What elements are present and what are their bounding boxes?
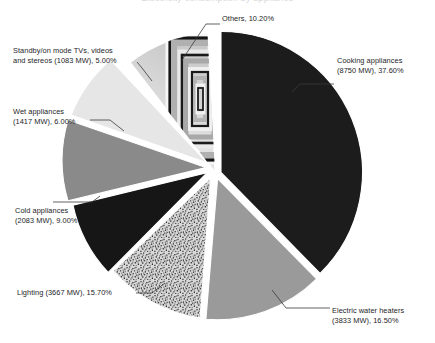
pie-chart-figure: Electricity consumption by appliance — [0, 0, 435, 343]
data-label-cooking-appliances: Cooking appliances (8750 MW), 37.60% — [337, 56, 433, 75]
data-label-others: Others, 10.20% — [222, 14, 302, 24]
data-label-wet-appliances: Wet appliances (1417 MW), 6.00% — [13, 107, 101, 126]
data-label-electric-water-heaters: Electric water heaters (3833 MW), 16.50% — [332, 306, 432, 325]
data-label-cold-appliances: Cold appliances (2083 MW), 9.00% — [15, 206, 107, 225]
data-label-lighting: Lighting (3667 MW), 15.70% — [17, 288, 139, 298]
data-label-standby-on-mode: Standby/on mode TVs, videos and stereos … — [13, 46, 143, 65]
